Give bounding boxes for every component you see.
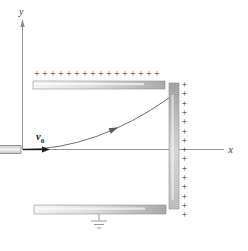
velocity-arrowhead <box>42 146 50 152</box>
velocity-subscript: 0 <box>41 137 45 145</box>
plus-charge: + <box>146 69 151 79</box>
y-axis-label: y <box>18 6 24 17</box>
x-axis-label: x <box>228 144 234 155</box>
plus-charge: + <box>90 69 95 79</box>
y-axis-arrowhead <box>20 19 24 27</box>
deflection-figure: y x v0 ++++++++++++++++ ++++++++++++++ <box>0 0 248 251</box>
top-plate-charges: ++++++++++++++++ <box>34 69 159 79</box>
right-plate-highlight <box>172 95 174 200</box>
top-plate-highlight <box>34 83 144 85</box>
trajectory-curve <box>23 98 170 150</box>
bottom-plate-highlight <box>35 208 145 210</box>
trajectory-arrowhead <box>108 124 119 133</box>
particle-gun <box>0 146 21 154</box>
plus-charge: + <box>130 69 135 79</box>
plus-charge: + <box>66 69 71 79</box>
plus-charge: + <box>34 69 39 79</box>
deflection-figure-svg: y x v0 ++++++++++++++++ ++++++++++++++ <box>0 0 248 251</box>
plus-charge: + <box>42 69 47 79</box>
plus-charge: + <box>50 69 55 79</box>
right-plate-charges: +++++++++++++++ <box>182 80 187 220</box>
plus-charge: + <box>74 69 79 79</box>
plus-charge: + <box>154 69 159 79</box>
right-plate <box>169 83 179 209</box>
plus-charge: + <box>58 69 63 79</box>
plus-charge: + <box>138 69 143 79</box>
plus-charge: + <box>98 69 103 79</box>
plus-charge: + <box>122 69 127 79</box>
plus-charge: + <box>114 69 119 79</box>
plus-charge: + <box>82 69 87 79</box>
plus-charge: + <box>182 210 187 220</box>
velocity-label: v0 <box>36 131 45 145</box>
plus-charge: + <box>106 69 111 79</box>
ground-symbol <box>91 214 107 228</box>
